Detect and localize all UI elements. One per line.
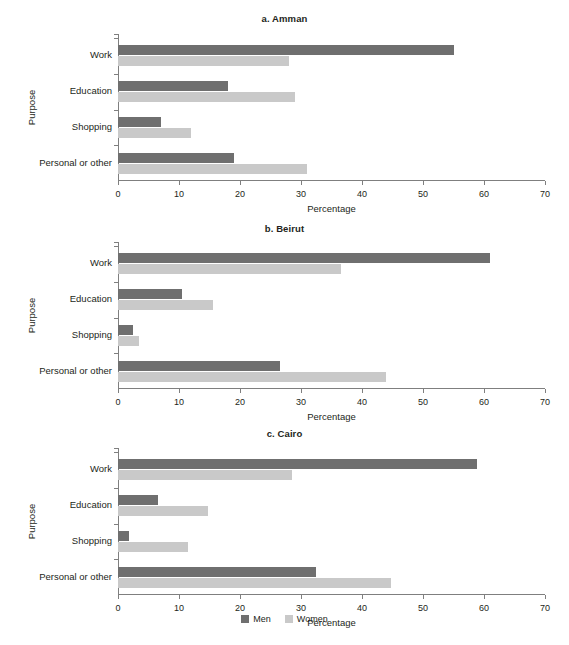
x-axis-tick-label: 10 xyxy=(174,189,184,199)
legend-item: Women xyxy=(285,614,328,624)
y-axis-category-label: Education xyxy=(6,85,112,96)
panel-title: a. Amman xyxy=(0,13,569,24)
bar-women xyxy=(118,506,208,516)
bar-men xyxy=(118,361,280,371)
y-axis-category-label: Work xyxy=(6,463,112,474)
y-axis-tick xyxy=(114,110,118,111)
bar-women xyxy=(118,164,307,174)
legend-swatch-icon xyxy=(285,615,293,623)
bar-group xyxy=(118,253,545,274)
bar-women xyxy=(118,92,295,102)
x-axis-tick xyxy=(484,595,485,599)
x-axis-line xyxy=(118,388,545,389)
x-axis-tick-label: 20 xyxy=(235,397,245,407)
bar-men xyxy=(118,567,316,577)
bar-men xyxy=(118,495,158,505)
y-axis-tick xyxy=(114,448,118,449)
y-axis-tick xyxy=(114,452,118,453)
bar-men xyxy=(118,117,161,127)
bar-group xyxy=(118,45,545,66)
chart-panel-beirut: b. Beirut Purpose 010203040506070WorkEdu… xyxy=(0,212,569,418)
x-axis-tick xyxy=(118,389,119,393)
bar-group xyxy=(118,567,545,588)
plot-area: 010203040506070WorkEducationShoppingPers… xyxy=(118,246,545,389)
bar-group xyxy=(118,325,545,346)
x-axis-tick xyxy=(301,181,302,185)
x-axis-tick xyxy=(118,595,119,599)
x-axis-tick xyxy=(362,181,363,185)
legend-label: Men xyxy=(253,614,271,624)
x-axis-tick-label: 50 xyxy=(418,189,428,199)
x-axis-tick-label: 0 xyxy=(115,189,120,199)
x-axis-tick-label: 30 xyxy=(296,603,306,613)
bar-group xyxy=(118,459,545,480)
y-axis-category-label: Education xyxy=(6,293,112,304)
y-axis-category-label: Shopping xyxy=(6,121,112,132)
y-axis-tick xyxy=(114,38,118,39)
y-axis-category-label: Work xyxy=(6,257,112,268)
x-axis-tick-label: 70 xyxy=(540,397,550,407)
x-axis-tick xyxy=(362,389,363,393)
legend-item: Men xyxy=(241,614,271,624)
y-axis-tick xyxy=(114,246,118,247)
y-axis-tick xyxy=(114,524,118,525)
x-axis-tick xyxy=(545,389,546,393)
y-axis-tick xyxy=(114,353,118,354)
x-axis-tick xyxy=(118,181,119,185)
bar-men xyxy=(118,289,182,299)
y-axis-category-label: Personal or other xyxy=(6,365,112,376)
bar-women xyxy=(118,578,391,588)
legend: MenWomen xyxy=(0,614,569,624)
x-axis-line xyxy=(118,180,545,181)
x-axis-tick xyxy=(179,595,180,599)
x-axis-tick-label: 20 xyxy=(235,603,245,613)
y-axis-tick xyxy=(114,488,118,489)
y-axis-tick xyxy=(114,559,118,560)
x-axis-tick-label: 70 xyxy=(540,189,550,199)
x-axis-tick-label: 40 xyxy=(357,397,367,407)
x-axis-tick-label: 60 xyxy=(479,397,489,407)
figure-three-panel-bar-charts: a. Amman Purpose 010203040506070WorkEduc… xyxy=(0,0,569,645)
bar-men xyxy=(118,253,490,263)
chart-panel-cairo: c. Cairo Purpose 010203040506070WorkEduc… xyxy=(0,418,569,632)
bar-women xyxy=(118,542,188,552)
x-axis-tick xyxy=(301,595,302,599)
x-axis-tick-label: 0 xyxy=(115,397,120,407)
y-axis-tick xyxy=(114,242,118,243)
y-axis-category-label: Shopping xyxy=(6,329,112,340)
x-axis-tick xyxy=(179,181,180,185)
bar-group xyxy=(118,531,545,552)
y-axis-tick xyxy=(114,34,118,35)
legend-label: Women xyxy=(297,614,328,624)
y-axis-category-label: Work xyxy=(6,49,112,60)
bar-men xyxy=(118,459,477,469)
x-axis-tick-label: 0 xyxy=(115,603,120,613)
x-axis-tick xyxy=(423,389,424,393)
x-axis-tick xyxy=(362,595,363,599)
x-axis-tick xyxy=(301,389,302,393)
plot-area: 010203040506070WorkEducationShoppingPers… xyxy=(118,38,545,181)
x-axis-tick xyxy=(545,595,546,599)
legend-swatch-icon xyxy=(241,615,249,623)
chart-panel-amman: a. Amman Purpose 010203040506070WorkEduc… xyxy=(0,0,569,212)
x-axis-tick-label: 60 xyxy=(479,189,489,199)
x-axis-tick-label: 30 xyxy=(296,397,306,407)
bar-women xyxy=(118,300,213,310)
bar-group xyxy=(118,289,545,310)
panel-title: c. Cairo xyxy=(0,428,569,439)
x-axis-line xyxy=(118,594,545,595)
bar-group xyxy=(118,153,545,174)
x-axis-tick xyxy=(545,181,546,185)
x-axis-tick-label: 20 xyxy=(235,189,245,199)
y-axis-tick xyxy=(114,145,118,146)
bar-group xyxy=(118,81,545,102)
x-axis-tick xyxy=(484,389,485,393)
x-axis-tick xyxy=(240,595,241,599)
x-axis-tick-label: 10 xyxy=(174,603,184,613)
y-axis-category-label: Personal or other xyxy=(6,157,112,168)
bar-women xyxy=(118,128,191,138)
bar-women xyxy=(118,336,139,346)
x-axis-tick xyxy=(179,389,180,393)
x-axis-tick-label: 40 xyxy=(357,603,367,613)
plot-area: 010203040506070WorkEducationShoppingPers… xyxy=(118,452,545,595)
